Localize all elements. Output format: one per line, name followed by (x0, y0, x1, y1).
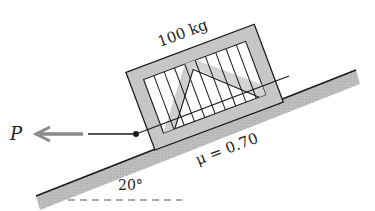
angle-label: 20° (118, 177, 143, 193)
attachment-point (133, 131, 139, 137)
incline-diagram: P 100 kg μ = 0.70 20° (0, 0, 375, 211)
force-label: P (9, 123, 23, 144)
